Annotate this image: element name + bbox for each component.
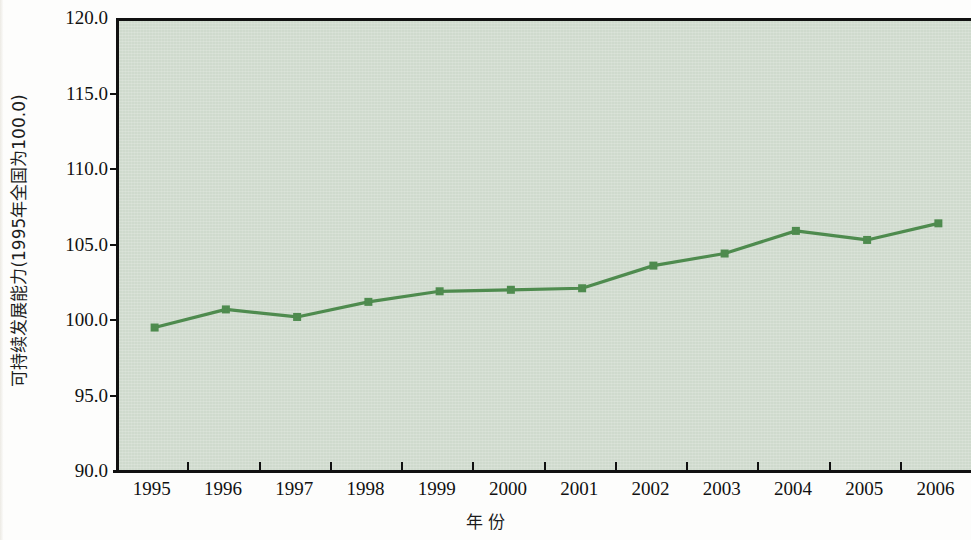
y-axis-tick-mark	[110, 93, 118, 95]
x-axis-tick-label: 1997	[254, 478, 334, 500]
x-axis-tick-label: 1998	[325, 478, 405, 500]
data-point-marker	[222, 305, 230, 313]
data-point-marker	[578, 284, 586, 292]
data-point-marker	[721, 250, 729, 258]
x-axis-tick-label: 2003	[682, 478, 762, 500]
y-axis-tick-labels: 120.0115.0110.0105.0100.095.090.0	[44, 0, 108, 540]
y-axis-tick-mark	[110, 319, 118, 321]
x-axis-tick-label: 1996	[183, 478, 263, 500]
data-point-marker	[364, 298, 372, 306]
x-axis-tick-label: 2004	[753, 478, 833, 500]
y-axis-tick-label: 100.0	[46, 310, 108, 329]
data-point-marker	[507, 286, 515, 294]
x-axis-title-text: 年 份	[466, 512, 505, 532]
plot-area	[116, 18, 971, 471]
x-axis-tick-label: 2001	[539, 478, 619, 500]
y-axis-tick-label: 115.0	[46, 84, 108, 103]
y-axis-tick-label: 105.0	[46, 235, 108, 254]
x-axis-tick-mark	[472, 462, 474, 471]
x-axis-tick-mark	[615, 462, 617, 471]
series-polyline	[155, 223, 939, 327]
data-point-marker	[151, 324, 159, 332]
x-axis-line	[113, 470, 971, 473]
x-axis-tick-label: 1999	[397, 478, 477, 500]
x-axis-tick-mark	[544, 462, 546, 471]
y-axis-title-text: 可持续发展能力(1995年全国为100.0)	[5, 94, 30, 386]
x-axis-tick-mark	[401, 462, 403, 471]
x-axis-tick-mark	[259, 462, 261, 471]
data-point-marker	[934, 219, 942, 227]
x-axis-tick-label: 2002	[610, 478, 690, 500]
x-axis-tick-mark	[330, 462, 332, 471]
y-axis-tick-label: 110.0	[46, 159, 108, 178]
y-axis-tick-label: 95.0	[46, 386, 108, 405]
y-axis-tick-mark	[110, 244, 118, 246]
data-point-marker	[293, 313, 301, 321]
x-axis-tick-label: 2005	[824, 478, 904, 500]
x-axis-tick-label: 1995	[112, 478, 192, 500]
y-axis-tick-label: 120.0	[46, 8, 108, 27]
y-axis-tick-mark	[110, 395, 118, 397]
y-axis-tick-label: 90.0	[46, 461, 108, 480]
data-point-marker	[436, 287, 444, 295]
y-axis-tick-mark	[110, 168, 118, 170]
x-axis-title: 年 份	[0, 508, 971, 533]
y-axis-title: 可持续发展能力(1995年全国为100.0)	[0, 0, 34, 480]
x-axis-tick-mark	[829, 462, 831, 471]
data-point-marker	[649, 262, 657, 270]
data-point-marker	[792, 227, 800, 235]
x-axis-tick-mark	[900, 462, 902, 471]
x-axis-tick-mark	[757, 462, 759, 471]
x-axis-tick-mark	[187, 462, 189, 471]
x-axis-tick-label: 2000	[468, 478, 548, 500]
x-axis-tick-mark	[686, 462, 688, 471]
x-axis-tick-label: 2006	[895, 478, 971, 500]
series-line-sustainability-capacity	[119, 21, 971, 471]
data-point-marker	[863, 236, 871, 244]
sustainability-capacity-line-chart: 可持续发展能力(1995年全国为100.0) 120.0115.0110.010…	[0, 0, 971, 540]
